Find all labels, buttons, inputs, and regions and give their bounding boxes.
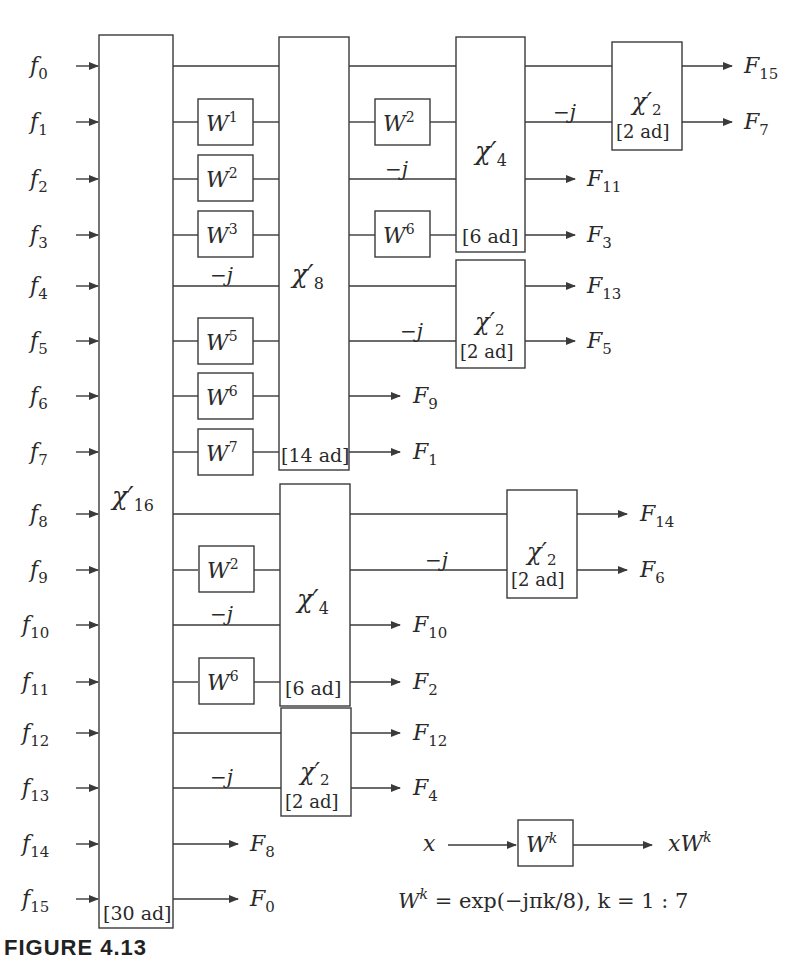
minus-j-label: −j xyxy=(425,548,448,572)
minus-j-label: −j xyxy=(210,263,233,287)
input-label-f0: f0 xyxy=(28,53,48,83)
twiddle-w6: W6 xyxy=(198,373,253,419)
output-F1: F1 xyxy=(412,439,438,469)
output-F10: F10 xyxy=(412,612,447,642)
chi2-bottom-cost: [2 ad] xyxy=(285,791,338,812)
legend-input: x xyxy=(423,831,436,856)
twiddle-legend: x Wk xWk Wk = exp(−jπk/8), k = 1 : 7 xyxy=(398,820,712,913)
output-F2: F2 xyxy=(412,669,438,699)
output-F6: F6 xyxy=(639,557,665,587)
input-label-f6: f6 xyxy=(28,383,48,413)
output-F9: F9 xyxy=(412,383,438,413)
output-F0: F0 xyxy=(249,886,275,916)
legend-output: xWk xyxy=(668,829,712,856)
twiddle-w7: W7 xyxy=(198,429,253,475)
chi16-block xyxy=(99,35,173,928)
input-label-f1: f1 xyxy=(28,109,48,139)
output-F7: F7 xyxy=(743,109,769,139)
input-label-f2: f2 xyxy=(28,166,48,196)
output-F8: F8 xyxy=(249,831,275,861)
output-F11: F11 xyxy=(586,166,621,196)
output-F4: F4 xyxy=(412,775,438,805)
twiddle-formula: Wk = exp(−jπk/8), k = 1 : 7 xyxy=(398,886,688,913)
input-label-f8: f8 xyxy=(28,501,48,531)
output-F12: F12 xyxy=(412,720,447,750)
chi4-lower-cost: [6 ad] xyxy=(285,677,341,699)
twiddle-w2-lower: W2 xyxy=(199,546,254,592)
chi16-cost: [30 ad] xyxy=(103,902,172,924)
input-rows: f0f1f2f3f4f5f6f7f8f9f10f11f12f13f14f15 xyxy=(20,53,98,916)
twiddle-w6-lower: W6 xyxy=(199,658,254,704)
minus-j-label: −j xyxy=(210,765,233,789)
input-label-f7: f7 xyxy=(28,439,48,469)
chi2-mid-cost: [2 ad] xyxy=(460,341,513,362)
output-F15: F15 xyxy=(743,53,778,83)
input-label-f9: f9 xyxy=(28,557,48,587)
input-label-f14: f14 xyxy=(20,831,49,861)
input-label-f3: f3 xyxy=(28,222,48,252)
minus-j-label: −j xyxy=(210,602,233,626)
input-label-f5: f5 xyxy=(28,328,48,358)
input-label-f10: f10 xyxy=(20,612,49,642)
chi8-cost: [14 ad] xyxy=(281,444,350,466)
chi8-block xyxy=(279,37,349,470)
input-label-f15: f15 xyxy=(20,886,49,916)
minus-j-label: −j xyxy=(400,319,423,343)
twiddle-w2: W2 xyxy=(198,155,253,201)
twiddle-w3: W3 xyxy=(198,211,253,257)
twiddle-w1: W1 xyxy=(198,99,253,145)
input-label-f12: f12 xyxy=(20,720,49,750)
output-F5: F5 xyxy=(586,328,612,358)
output-F14: F14 xyxy=(639,501,674,531)
figure-caption: FIGURE 4.13 xyxy=(4,935,147,960)
input-label-f11: f11 xyxy=(20,669,49,699)
minus-j-label: −j xyxy=(553,100,576,124)
input-label-f13: f13 xyxy=(20,775,49,805)
output-F13: F13 xyxy=(586,273,621,303)
chi2-right-cost: [2 ad] xyxy=(511,569,564,590)
input-label-f4: f4 xyxy=(28,273,48,303)
minus-j-label: −j xyxy=(385,157,408,181)
chi4-upper-cost: [6 ad] xyxy=(462,225,518,247)
chi2-top-cost: [2 ad] xyxy=(616,121,669,142)
fft-flow-diagram: f0f1f2f3f4f5f6f7f8f9f10f11f12f13f14f15 χ… xyxy=(0,0,808,960)
twiddle-w6-stage2: W6 xyxy=(375,211,430,257)
twiddle-w2-stage2: W2 xyxy=(375,99,430,145)
output-F3: F3 xyxy=(586,222,612,252)
twiddle-w5: W5 xyxy=(198,318,253,364)
